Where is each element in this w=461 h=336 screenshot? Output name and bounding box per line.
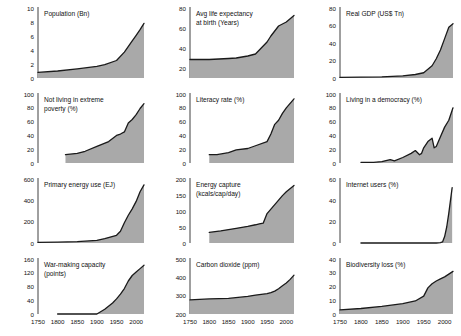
x-tick-label: 1950 [417, 318, 431, 325]
y-tick-label: 0 [183, 160, 187, 167]
x-tick-label: 1800 [202, 318, 216, 325]
chart-svg: 020406080100Not living in extremepoverty… [0, 86, 152, 171]
y-tick-label: 0 [31, 75, 35, 82]
y-tick-label: 200 [176, 176, 187, 183]
panel-title: at birth (Years) [196, 19, 239, 27]
y-tick-label: 100 [24, 91, 35, 98]
panel-title: Internet users (%) [346, 181, 398, 189]
y-tick-label: 80 [179, 5, 186, 12]
chart-svg: 010203040175018001850190019502000Biodive… [302, 251, 461, 336]
y-tick-label: 4 [31, 47, 35, 54]
chart-panel: 050100150200Energy capture(kcals/cap/day… [152, 171, 302, 251]
y-tick-label: 100 [176, 91, 187, 98]
area-fill [65, 104, 144, 163]
y-tick-label: 0 [333, 75, 337, 82]
x-tick-label: 1750 [183, 318, 197, 325]
y-tick-label: 0 [31, 160, 35, 167]
panel-title: Biodiversity loss (%) [346, 261, 405, 269]
x-tick-label: 1950 [110, 318, 124, 325]
y-tick-label: 80 [329, 104, 336, 111]
x-tick-label: 1750 [31, 318, 45, 325]
y-tick-label: 80 [329, 5, 336, 12]
y-tick-label: 40 [329, 132, 336, 139]
y-tick-label: 30 [329, 269, 336, 276]
series-line [361, 188, 452, 243]
chart-panel: 020406080Real GDP (US$ Tn) [302, 0, 461, 86]
small-multiples-chart-grid: 0246810Population (Bn)20406080Avg life e… [0, 0, 461, 336]
chart-svg: 0200400600Primary energy use (EJ) [0, 171, 152, 251]
y-tick-label: 80 [27, 283, 34, 290]
y-tick-label: 0 [31, 240, 35, 247]
panel-title: Literacy rate (%) [196, 96, 244, 104]
chart-panel: 020406080100Not living in extremepoverty… [0, 86, 152, 171]
y-tick-label: 0 [333, 240, 337, 247]
panel-title: (kcals/cap/day) [196, 190, 240, 198]
y-tick-label: 0 [333, 160, 337, 167]
x-tick-label: 1850 [222, 318, 236, 325]
y-tick-label: 20 [329, 218, 336, 225]
y-tick-label: 20 [179, 65, 186, 72]
y-tick-label: 60 [329, 118, 336, 125]
y-tick-label: 160 [24, 256, 35, 263]
y-tick-label: 400 [176, 274, 187, 281]
chart-panel: 020406080100Literacy rate (%) [152, 86, 302, 171]
y-tick-label: 100 [326, 91, 337, 98]
y-tick-label: 0 [333, 311, 337, 318]
x-tick-label: 1850 [70, 318, 84, 325]
y-tick-label: 2 [31, 61, 35, 68]
chart-svg: 0246810Population (Bn) [0, 0, 152, 86]
chart-panel: 020406080100Living in a democracy (%) [302, 86, 461, 171]
chart-panel: 20406080Avg life expectancyat birth (Yea… [152, 0, 302, 86]
chart-panel: 200300400500175018001850190019502000Carb… [152, 251, 302, 336]
panel-title: Carbon dioxide (ppm) [196, 261, 259, 269]
chart-panel: 010203040175018001850190019502000Biodive… [302, 251, 461, 336]
y-tick-label: 60 [329, 22, 336, 29]
y-tick-label: 60 [179, 25, 186, 32]
chart-svg: 0204060Internet users (%) [302, 171, 461, 251]
chart-svg: 04080120160175018001850190019502000War-m… [0, 251, 152, 336]
area-fill [340, 271, 453, 314]
y-tick-label: 10 [27, 5, 34, 12]
y-tick-label: 120 [24, 269, 35, 276]
area-fill [340, 24, 453, 78]
y-tick-label: 80 [27, 104, 34, 111]
y-tick-label: 150 [176, 192, 187, 199]
area-fill [361, 188, 452, 243]
y-tick-label: 0 [183, 240, 187, 247]
chart-svg: 020406080100Literacy rate (%) [152, 86, 302, 171]
chart-panel: 04080120160175018001850190019502000War-m… [0, 251, 152, 336]
y-tick-label: 40 [329, 256, 336, 263]
y-tick-label: 10 [329, 297, 336, 304]
y-tick-label: 40 [179, 45, 186, 52]
y-tick-label: 200 [176, 311, 187, 318]
y-tick-label: 400 [24, 197, 35, 204]
x-tick-label: 1850 [375, 318, 389, 325]
panel-title: poverty (%) [44, 105, 78, 113]
y-tick-label: 60 [329, 176, 336, 183]
panel-title: (points) [44, 270, 66, 278]
y-tick-label: 300 [176, 292, 187, 299]
y-tick-label: 40 [27, 297, 34, 304]
x-tick-label: 1800 [354, 318, 368, 325]
y-tick-label: 50 [179, 224, 186, 231]
x-tick-label: 1900 [241, 318, 255, 325]
panel-title: Energy capture [196, 181, 241, 189]
panel-title: Primary energy use (EJ) [44, 181, 115, 189]
chart-svg: 20406080Avg life expectancyat birth (Yea… [152, 0, 302, 86]
area-fill [38, 23, 144, 78]
x-tick-label: 2000 [129, 318, 143, 325]
chart-svg: 020406080Real GDP (US$ Tn) [302, 0, 461, 86]
panel-title: Not living in extreme [44, 96, 104, 104]
x-tick-label: 1950 [260, 318, 274, 325]
y-tick-label: 20 [329, 57, 336, 64]
y-tick-label: 600 [24, 176, 35, 183]
x-tick-label: 1750 [333, 318, 347, 325]
chart-svg: 050100150200Energy capture(kcals/cap/day… [152, 171, 302, 251]
y-tick-label: 6 [31, 33, 35, 40]
y-tick-label: 80 [179, 104, 186, 111]
y-tick-label: 100 [176, 208, 187, 215]
y-tick-label: 40 [179, 132, 186, 139]
chart-panel: 0246810Population (Bn) [0, 0, 152, 86]
panel-title: War-making capacity [44, 261, 106, 269]
x-tick-label: 2000 [279, 318, 293, 325]
